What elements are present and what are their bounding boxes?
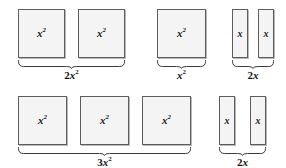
tile-label: x2 [100, 115, 109, 126]
tile-group-group-3x2: x2x2x23x2 [18, 0, 191, 168]
tile-x[interactable]: x [250, 96, 266, 145]
tile-x-squared[interactable]: x2 [18, 96, 67, 145]
tile-row: xx [219, 96, 266, 145]
tile-label: x2 [162, 115, 171, 126]
tile-x-squared[interactable]: x2 [142, 96, 191, 145]
group-caption: 2x [219, 157, 266, 168]
tile-label: x [225, 116, 230, 126]
tile-label: x2 [38, 115, 47, 126]
tile-group-group-2x-bottom: xx2x [219, 0, 266, 168]
tile-x[interactable]: x [219, 96, 235, 145]
tile-row: x2x2x2 [18, 96, 191, 145]
group-caption: 3x2 [18, 157, 191, 168]
algebra-tiles-figure: x2x22x2x2x2xx2xx2x2x23x2xx2x [0, 0, 286, 168]
tile-x-squared[interactable]: x2 [80, 96, 129, 145]
tile-label: x [256, 116, 261, 126]
